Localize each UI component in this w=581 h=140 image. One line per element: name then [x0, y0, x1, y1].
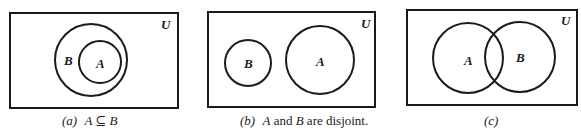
caption-b: (b) A and B are disjoint. [240, 113, 368, 128]
caption-c: (c) [484, 113, 498, 128]
set-b-label-c: B [515, 50, 525, 65]
venn-diagram-figure: U B A (a) A ⊆ B U B A (b) A and B are di… [0, 0, 581, 140]
set-a-label-a: A [95, 56, 105, 71]
set-b-label-a: B [63, 53, 73, 68]
universe-label-c: U [561, 13, 571, 28]
universe-label-b: U [361, 16, 371, 31]
universe-label-a: U [161, 17, 171, 32]
panel-c: U A B (c) [407, 10, 577, 128]
caption-a: (a) A ⊆ B [62, 113, 118, 128]
set-a-label-b: A [315, 54, 325, 69]
universe-rect-a [10, 13, 178, 108]
set-b-label-b: B [243, 56, 253, 71]
universe-rect-b [208, 12, 375, 107]
set-a-label-c: A [463, 53, 473, 68]
panel-b: U B A (b) A and B are disjoint. [208, 12, 375, 128]
panel-a: U B A (a) A ⊆ B [10, 13, 178, 128]
